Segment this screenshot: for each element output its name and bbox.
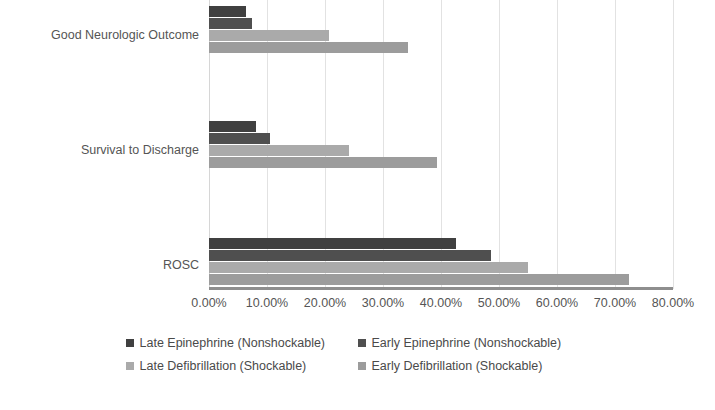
bar-row — [209, 238, 673, 249]
bar-row — [209, 145, 673, 156]
bar[interactable] — [209, 274, 629, 285]
legend-label: Late Defibrillation (Shockable) — [140, 359, 307, 373]
bar-row — [209, 6, 673, 17]
bar-group-good-neurologic-outcome — [209, 6, 673, 54]
bar[interactable] — [209, 133, 270, 144]
legend-item-late-defibrillation-shockable[interactable]: Late Defibrillation (Shockable) — [126, 359, 358, 373]
legend-row: Late Defibrillation (Shockable)Early Def… — [126, 359, 590, 373]
x-tick-label-80: 80.00% — [638, 296, 708, 310]
bar-row — [209, 274, 673, 285]
legend-item-late-epinephrine-nonshockable[interactable]: Late Epinephrine (Nonshockable) — [126, 336, 358, 350]
legend-item-early-defibrillation-shockable[interactable]: Early Defibrillation (Shockable) — [358, 359, 590, 373]
bar[interactable] — [209, 262, 528, 273]
bar-row — [209, 157, 673, 168]
legend-swatch-icon — [358, 362, 366, 370]
bar-row — [209, 121, 673, 132]
legend-label: Late Epinephrine (Nonshockable) — [140, 336, 326, 350]
category-label-good-neurologic-outcome: Good Neurologic Outcome — [9, 28, 209, 42]
x-axis-tick-labels: 0.00%10.00%20.00%30.00%40.00%50.00%60.00… — [0, 296, 715, 316]
plot-area — [209, 0, 673, 289]
bar-row — [209, 30, 673, 41]
category-axis-labels: Good Neurologic OutcomeSurvival to Disch… — [0, 0, 209, 289]
bar[interactable] — [209, 6, 246, 17]
bar-group-rosc — [209, 238, 673, 286]
bar-chart: Good Neurologic OutcomeSurvival to Disch… — [0, 0, 715, 410]
bar-row — [209, 133, 673, 144]
legend-label: Early Epinephrine (Nonshockable) — [372, 336, 562, 350]
legend-swatch-icon — [358, 339, 366, 347]
legend-item-early-epinephrine-nonshockable[interactable]: Early Epinephrine (Nonshockable) — [358, 336, 590, 350]
bar[interactable] — [209, 30, 329, 41]
bar[interactable] — [209, 121, 256, 132]
bar-row — [209, 18, 673, 29]
legend-swatch-icon — [126, 362, 134, 370]
bar[interactable] — [209, 42, 408, 53]
bar-row — [209, 262, 673, 273]
bar[interactable] — [209, 250, 491, 261]
bar[interactable] — [209, 157, 437, 168]
bar-row — [209, 42, 673, 53]
bar-group-survival-to-discharge — [209, 121, 673, 169]
legend-row: Late Epinephrine (Nonshockable)Early Epi… — [126, 336, 590, 350]
legend-swatch-icon — [126, 339, 134, 347]
category-label-rosc: ROSC — [9, 258, 209, 272]
bar-row — [209, 250, 673, 261]
x-axis-line — [209, 287, 673, 290]
legend-label: Early Defibrillation (Shockable) — [372, 359, 543, 373]
gridline-80 — [673, 0, 674, 289]
bar[interactable] — [209, 145, 349, 156]
category-label-survival-to-discharge: Survival to Discharge — [9, 143, 209, 157]
bar[interactable] — [209, 18, 252, 29]
bar[interactable] — [209, 238, 456, 249]
chart-legend: Late Epinephrine (Nonshockable)Early Epi… — [0, 336, 715, 373]
